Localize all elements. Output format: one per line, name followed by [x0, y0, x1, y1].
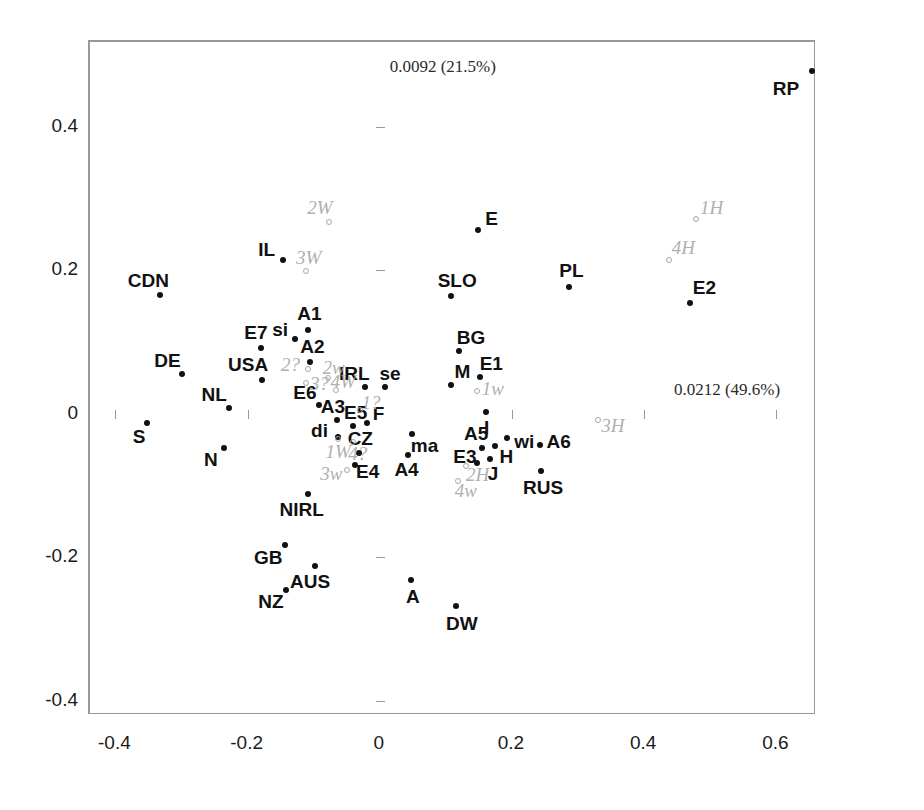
- x-tick-mark: [512, 410, 513, 419]
- data-point-label: GB: [254, 547, 283, 569]
- data-point-label: 4w: [455, 480, 477, 502]
- x-axis-tick-label: 0: [374, 732, 385, 754]
- data-point-label: BG: [457, 327, 486, 349]
- y-axis-tick-label: 0.4: [26, 115, 78, 137]
- data-point-filled: [537, 442, 543, 448]
- data-point-open: [595, 417, 601, 423]
- x-tick-mark: [248, 410, 249, 419]
- data-point-label: M: [455, 361, 471, 383]
- data-point-filled: [809, 68, 815, 74]
- data-point-label: IL: [258, 239, 275, 261]
- plot-area: 0.0092 (21.5%)0.0212 (49.6%) RPESLOPLE2I…: [88, 40, 815, 714]
- y-axis-zero-line: [89, 41, 90, 713]
- data-point-filled: [492, 443, 498, 449]
- data-point-label: CDN: [128, 270, 169, 292]
- data-point-label: A: [406, 586, 420, 608]
- data-point-label: 2?: [281, 354, 300, 376]
- data-point-label: 4?: [348, 443, 367, 465]
- data-point-filled: [307, 359, 313, 365]
- data-point-label: J: [488, 463, 499, 485]
- data-point-label: NL: [201, 384, 226, 406]
- data-point-open: [344, 467, 350, 473]
- data-point-filled: [475, 227, 481, 233]
- data-point-label: 1?: [361, 392, 380, 414]
- y-tick-mark: [376, 701, 385, 702]
- data-point-filled: [405, 452, 411, 458]
- data-point-open: [305, 366, 311, 372]
- data-point-filled: [282, 542, 288, 548]
- data-point-filled: [283, 587, 289, 593]
- data-point-label: NZ: [258, 591, 283, 613]
- x-tick-mark: [776, 410, 777, 419]
- data-point-label: 1w: [482, 378, 504, 400]
- data-point-filled: [157, 292, 163, 298]
- data-point-label: PL: [559, 260, 583, 282]
- x-tick-mark: [644, 410, 645, 419]
- data-point-label: si: [272, 319, 288, 341]
- x-tick-mark: [115, 410, 116, 419]
- data-point-label: E2: [693, 277, 716, 299]
- data-point-label: E: [485, 208, 498, 230]
- data-point-label: USA: [228, 354, 268, 376]
- data-point-filled: [448, 382, 454, 388]
- data-point-filled: [448, 293, 454, 299]
- data-point-label: N: [204, 449, 218, 471]
- x-axis-tick-label: 0.4: [630, 732, 656, 754]
- data-point-label: 2W: [307, 197, 332, 219]
- data-point-filled: [453, 603, 459, 609]
- data-point-filled: [259, 377, 265, 383]
- data-point-label: se: [380, 363, 401, 385]
- data-point-filled: [226, 405, 232, 411]
- data-point-open: [693, 216, 699, 222]
- data-point-label: S: [133, 426, 146, 448]
- data-point-label: E7: [244, 322, 267, 344]
- data-point-filled: [305, 327, 311, 333]
- data-point-label: NIRL: [280, 499, 324, 521]
- data-point-open: [474, 388, 480, 394]
- data-point-label: RP: [773, 78, 799, 100]
- data-point-label: 4H: [672, 237, 695, 259]
- data-point-label: SLO: [438, 270, 477, 292]
- data-point-filled: [487, 456, 493, 462]
- data-point-label: 3?: [310, 373, 329, 395]
- data-point-open: [303, 380, 309, 386]
- data-point-label: A3: [321, 396, 345, 418]
- data-point-filled: [292, 336, 298, 342]
- data-point-label: 4W: [331, 371, 356, 393]
- data-point-label: A6: [547, 431, 571, 453]
- x-axis-tick-label: -0.2: [230, 732, 263, 754]
- data-point-filled: [538, 468, 544, 474]
- data-point-filled: [221, 445, 227, 451]
- x-axis-zero-line: [89, 41, 814, 42]
- axis1-variance-annotation: 0.0212 (49.6%): [674, 380, 780, 400]
- data-point-label: AUS: [290, 571, 330, 593]
- data-point-label: 3W: [296, 247, 321, 269]
- y-tick-mark: [376, 270, 385, 271]
- y-tick-mark: [376, 557, 385, 558]
- data-point-filled: [280, 257, 286, 263]
- data-point-filled: [687, 300, 693, 306]
- data-point-filled: [483, 409, 489, 415]
- data-point-filled: [364, 420, 370, 426]
- data-point-filled: [504, 435, 510, 441]
- data-point-label: 3w: [320, 463, 342, 485]
- x-axis-tick-label: -0.4: [98, 732, 131, 754]
- data-point-label: 3H: [601, 415, 624, 437]
- scatter-plot-figure: 0.0092 (21.5%)0.0212 (49.6%) RPESLOPLE2I…: [0, 0, 924, 810]
- y-axis-tick-label: 0.2: [26, 258, 78, 280]
- data-point-label: 1H: [700, 197, 723, 219]
- data-point-label: ma: [411, 435, 438, 457]
- data-point-filled: [258, 345, 264, 351]
- data-point-label: wi: [514, 431, 534, 453]
- x-axis-tick-label: 0.2: [498, 732, 524, 754]
- data-point-label: DW: [446, 613, 478, 635]
- data-point-filled: [479, 445, 485, 451]
- data-point-label: A5: [464, 423, 488, 445]
- data-point-filled: [408, 577, 414, 583]
- data-point-filled: [305, 491, 311, 497]
- data-point-filled: [566, 284, 572, 290]
- data-point-label: A1: [297, 303, 321, 325]
- y-axis-tick-label: -0.4: [26, 689, 78, 711]
- y-tick-mark: [376, 127, 385, 128]
- data-point-label: 1W: [325, 441, 350, 463]
